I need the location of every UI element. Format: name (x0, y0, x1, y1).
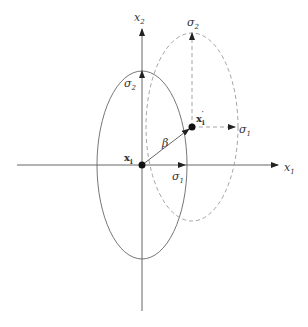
beta-label: β (161, 137, 168, 150)
ellipse-diagram: x1 x2 σ2 σ1 σ2 σ1 β xi xi′ (0, 0, 308, 327)
shifted-point-label: xi′ (196, 109, 205, 127)
x1-axis-label: x1 (284, 161, 295, 176)
shifted-sigma1-label: σ1 (239, 123, 251, 138)
shifted-point (189, 124, 196, 131)
original-sigma1-label: σ1 (172, 170, 184, 185)
shifted-sigma2-label: σ2 (187, 16, 200, 31)
original-sigma2-label: σ2 (124, 77, 137, 92)
x2-axis-label: x2 (134, 11, 145, 26)
original-point-label: xi (124, 152, 133, 166)
original-point (139, 162, 146, 169)
